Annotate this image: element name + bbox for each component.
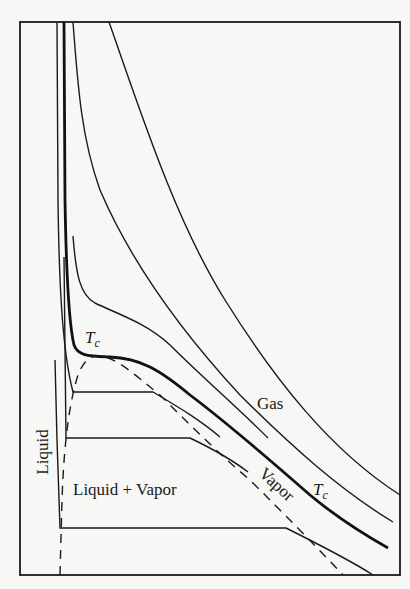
coexistence-dome-dashed (60, 356, 343, 575)
isotherm-above-critical (73, 236, 268, 438)
vapor-label: Vapor (255, 464, 298, 506)
isotherm-below-critical-2 (64, 257, 248, 472)
critical-isotherm (64, 22, 388, 548)
gas-label: Gas (257, 394, 283, 413)
liquid-vapor-label: Liquid + Vapor (73, 480, 177, 499)
isotherm-high-2 (73, 22, 393, 522)
pv-diagram: Tc Gas Liquid Liquid + Vapor Vapor Tc (0, 0, 410, 589)
isotherm-below-critical-1 (57, 22, 220, 437)
tc-label-upper: Tc (85, 328, 100, 350)
tc-label-lower: Tc (313, 480, 328, 502)
liquid-label: Liquid (33, 429, 52, 475)
